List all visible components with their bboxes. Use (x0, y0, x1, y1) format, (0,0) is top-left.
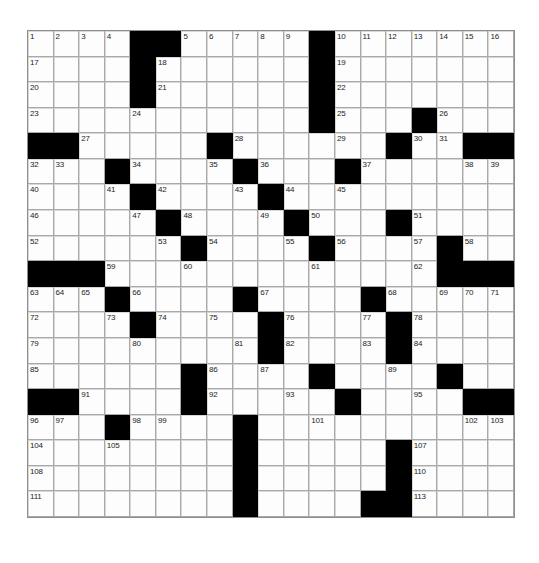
grid-cell[interactable] (105, 364, 131, 390)
grid-cell[interactable]: 46 (28, 210, 54, 236)
grid-cell[interactable]: 85 (28, 364, 54, 390)
grid-cell[interactable]: 36 (258, 159, 284, 185)
grid-cell[interactable] (54, 312, 80, 338)
grid-cell[interactable] (54, 57, 80, 83)
grid-cell[interactable]: 74 (156, 312, 182, 338)
grid-cell[interactable] (361, 108, 387, 134)
grid-cell[interactable] (54, 440, 80, 466)
grid-cell[interactable]: 67 (258, 287, 284, 313)
grid-cell[interactable]: 13 (412, 31, 438, 57)
grid-cell[interactable]: 8 (258, 31, 284, 57)
grid-cell[interactable] (463, 364, 489, 390)
grid-cell[interactable]: 66 (130, 287, 156, 313)
grid-cell[interactable] (437, 184, 463, 210)
grid-cell[interactable]: 78 (412, 312, 438, 338)
grid-cell[interactable] (284, 108, 310, 134)
grid-cell[interactable]: 111 (28, 491, 54, 517)
grid-cell[interactable] (156, 466, 182, 492)
grid-cell[interactable] (79, 108, 105, 134)
grid-cell[interactable] (79, 440, 105, 466)
grid-cell[interactable] (412, 184, 438, 210)
grid-cell[interactable] (130, 236, 156, 262)
grid-cell[interactable]: 63 (28, 287, 54, 313)
grid-cell[interactable] (437, 82, 463, 108)
grid-cell[interactable] (79, 338, 105, 364)
grid-cell[interactable]: 3 (79, 31, 105, 57)
grid-cell[interactable] (79, 159, 105, 185)
grid-cell[interactable] (258, 261, 284, 287)
grid-cell[interactable] (437, 389, 463, 415)
grid-cell[interactable]: 103 (488, 415, 514, 441)
grid-cell[interactable] (181, 159, 207, 185)
grid-cell[interactable]: 56 (335, 236, 361, 262)
grid-cell[interactable] (361, 184, 387, 210)
grid-cell[interactable] (79, 491, 105, 517)
grid-cell[interactable] (463, 57, 489, 83)
grid-cell[interactable]: 89 (386, 364, 412, 390)
grid-cell[interactable] (488, 364, 514, 390)
grid-cell[interactable] (463, 466, 489, 492)
grid-cell[interactable] (335, 287, 361, 313)
grid-cell[interactable] (463, 184, 489, 210)
grid-cell[interactable] (258, 389, 284, 415)
grid-cell[interactable] (463, 491, 489, 517)
grid-cell[interactable] (463, 210, 489, 236)
grid-cell[interactable] (207, 57, 233, 83)
grid-cell[interactable] (233, 389, 259, 415)
grid-cell[interactable] (284, 82, 310, 108)
grid-cell[interactable] (335, 415, 361, 441)
grid-cell[interactable] (54, 82, 80, 108)
grid-cell[interactable]: 64 (54, 287, 80, 313)
grid-cell[interactable] (130, 364, 156, 390)
grid-cell[interactable] (233, 312, 259, 338)
grid-cell[interactable]: 51 (412, 210, 438, 236)
grid-cell[interactable] (361, 210, 387, 236)
grid-cell[interactable]: 41 (105, 184, 131, 210)
grid-cell[interactable] (54, 466, 80, 492)
grid-cell[interactable]: 68 (386, 287, 412, 313)
grid-cell[interactable]: 21 (156, 82, 182, 108)
grid-cell[interactable] (181, 338, 207, 364)
grid-cell[interactable] (412, 82, 438, 108)
grid-cell[interactable] (105, 236, 131, 262)
grid-cell[interactable] (156, 440, 182, 466)
grid-cell[interactable] (335, 440, 361, 466)
grid-cell[interactable] (488, 491, 514, 517)
grid-cell[interactable] (488, 82, 514, 108)
grid-cell[interactable] (258, 236, 284, 262)
grid-cell[interactable] (284, 159, 310, 185)
grid-cell[interactable] (79, 466, 105, 492)
grid-cell[interactable] (207, 415, 233, 441)
grid-cell[interactable] (361, 57, 387, 83)
grid-cell[interactable] (335, 210, 361, 236)
grid-cell[interactable] (258, 82, 284, 108)
grid-cell[interactable]: 42 (156, 184, 182, 210)
grid-cell[interactable] (361, 440, 387, 466)
grid-cell[interactable] (105, 491, 131, 517)
grid-cell[interactable] (181, 287, 207, 313)
grid-cell[interactable]: 70 (463, 287, 489, 313)
grid-cell[interactable] (181, 184, 207, 210)
grid-cell[interactable] (79, 415, 105, 441)
grid-cell[interactable] (130, 261, 156, 287)
grid-cell[interactable] (361, 466, 387, 492)
grid-cell[interactable] (284, 466, 310, 492)
grid-cell[interactable] (488, 184, 514, 210)
grid-cell[interactable]: 84 (412, 338, 438, 364)
grid-cell[interactable]: 20 (28, 82, 54, 108)
grid-cell[interactable] (156, 364, 182, 390)
grid-cell[interactable] (207, 82, 233, 108)
grid-cell[interactable] (463, 440, 489, 466)
grid-cell[interactable] (207, 338, 233, 364)
grid-cell[interactable] (335, 338, 361, 364)
grid-cell[interactable]: 98 (130, 415, 156, 441)
grid-cell[interactable] (233, 364, 259, 390)
grid-cell[interactable]: 44 (284, 184, 310, 210)
grid-cell[interactable]: 65 (79, 287, 105, 313)
grid-cell[interactable]: 79 (28, 338, 54, 364)
grid-cell[interactable] (488, 108, 514, 134)
grid-cell[interactable] (207, 287, 233, 313)
grid-cell[interactable]: 101 (309, 415, 335, 441)
grid-cell[interactable]: 29 (335, 133, 361, 159)
grid-cell[interactable] (105, 389, 131, 415)
